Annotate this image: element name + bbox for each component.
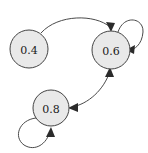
arrowhead-into-0.8-right: [68, 103, 78, 112]
node-0.4[interactable]: 0.4: [10, 30, 48, 68]
arrowhead-into-0.8-bottom: [46, 127, 55, 137]
node-0.8[interactable]: 0.8: [33, 90, 69, 126]
node-0.6[interactable]: 0.6: [92, 31, 130, 69]
arrowhead-into-0.6-top: [106, 22, 115, 32]
edge-0.4-to-0.6-path: [41, 18, 110, 33]
graph-svg: 0.4 0.6 0.8: [0, 0, 148, 153]
node-0.8-circle: [33, 90, 69, 126]
edge-0.4-to-0.6[interactable]: [41, 18, 115, 33]
diagram-canvas: 0.4 0.6 0.8: [0, 0, 148, 153]
edge-0.6-to-0.8-path: [72, 71, 110, 107]
edge-0.6-to-0.8[interactable]: [68, 67, 114, 112]
node-0.6-circle: [92, 31, 130, 69]
node-group: 0.4 0.6 0.8: [10, 30, 130, 126]
node-0.4-circle: [10, 30, 48, 68]
